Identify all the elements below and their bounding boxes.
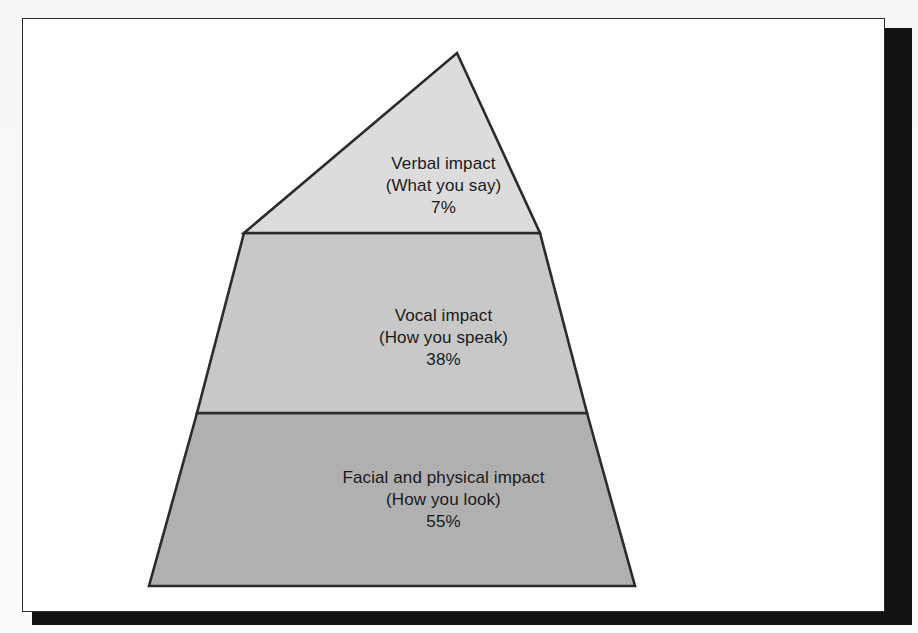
tier-vocal-percent: 38% bbox=[379, 349, 508, 371]
tier-vocal-title: Vocal impact bbox=[379, 305, 508, 327]
figure-inner-area: Verbal impact (What you say) 7% Vocal im… bbox=[23, 19, 884, 611]
tier-verbal-title: Verbal impact bbox=[386, 153, 502, 175]
tier-label-facial: Facial and physical impact (How you look… bbox=[23, 467, 884, 533]
tier-verbal-subtitle: (What you say) bbox=[386, 175, 502, 197]
tier-label-verbal: Verbal impact (What you say) 7% bbox=[23, 153, 884, 219]
tier-facial-title: Facial and physical impact bbox=[343, 467, 545, 489]
figure-frame: Verbal impact (What you say) 7% Vocal im… bbox=[22, 18, 885, 612]
tier-verbal-percent: 7% bbox=[386, 197, 502, 219]
tier-facial-subtitle: (How you look) bbox=[343, 489, 545, 511]
page-canvas: Verbal impact (What you say) 7% Vocal im… bbox=[0, 0, 918, 633]
tier-vocal-subtitle: (How you speak) bbox=[379, 327, 508, 349]
tier-label-vocal: Vocal impact (How you speak) 38% bbox=[23, 305, 884, 371]
tier-facial-percent: 55% bbox=[343, 511, 545, 533]
